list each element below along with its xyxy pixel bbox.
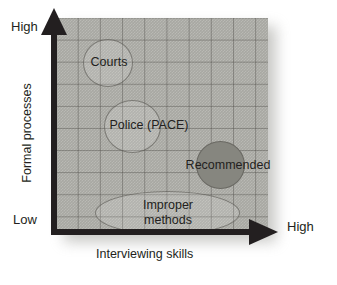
y-axis-arrow-icon: [41, 8, 67, 35]
y-axis-line: [51, 30, 57, 235]
diagram-figure: Courts Police (PACE) Recommended Imprope…: [0, 0, 337, 285]
bubble-label-police: Police (PACE): [96, 119, 202, 133]
bubble-label-improper-line1: Improper: [143, 198, 193, 212]
x-axis-title: Interviewing skills: [96, 247, 193, 261]
bubble-label-improper-methods: Improper methods: [118, 198, 218, 228]
x-axis-line: [51, 229, 255, 235]
bubble-label-recommended: Recommended: [160, 159, 296, 173]
y-axis-high-label: High: [11, 19, 38, 34]
bubble-label-improper-line2: methods: [144, 213, 192, 227]
bubble-label-courts: Courts: [80, 56, 138, 70]
x-axis-high-label: High: [287, 219, 314, 234]
y-axis-low-label: Low: [13, 212, 37, 227]
y-axis-title: Formal processes: [20, 68, 34, 198]
plot-panel: Courts Police (PACE) Recommended Imprope…: [56, 18, 268, 234]
x-axis-arrow-icon: [249, 219, 278, 245]
